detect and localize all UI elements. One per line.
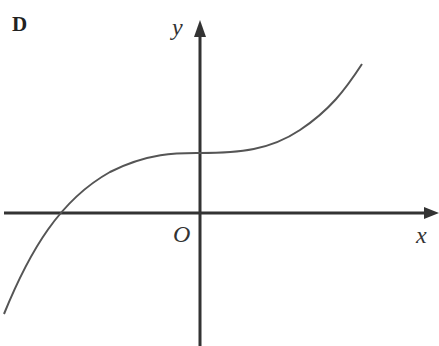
graph-svg [0,0,439,346]
graph-figure: D y x O [0,0,439,346]
y-axis-arrow-icon [194,20,206,37]
origin-label: O [173,221,190,248]
y-axis [194,20,206,346]
function-curve [4,64,362,314]
x-axis [4,207,439,219]
panel-label: D [12,12,27,37]
x-axis-label: x [416,222,427,249]
y-axis-label: y [172,14,183,41]
x-axis-arrow-icon [424,207,439,219]
